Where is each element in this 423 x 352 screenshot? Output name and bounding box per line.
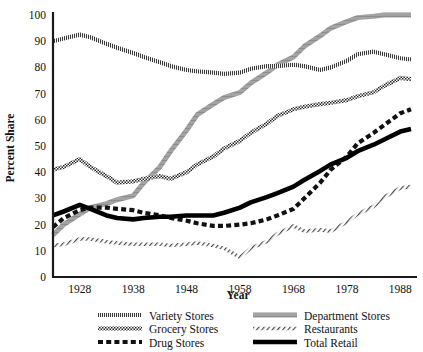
legend-label: Restaurants <box>304 323 358 335</box>
legend-label: Total Retail <box>304 337 358 349</box>
y-tick-label: 50 <box>35 140 47 152</box>
x-axis-title: Year <box>227 289 250 301</box>
y-axis-title: Percent Share <box>4 114 16 183</box>
x-tick-label: 1968 <box>282 283 305 295</box>
x-tick-label: 1948 <box>175 283 198 295</box>
series-line-restaurants <box>53 187 411 258</box>
percent-share-line-chart: 0102030405060708090100 19281938194819581… <box>0 0 423 352</box>
y-tick-label: 20 <box>35 219 47 231</box>
x-tick-label: 1938 <box>122 283 145 295</box>
y-tick-label: 0 <box>40 271 46 283</box>
y-tick-label: 30 <box>35 192 47 204</box>
series-line-variety-stores <box>53 35 411 74</box>
y-tick-label: 90 <box>35 35 47 47</box>
chart-container: 0102030405060708090100 19281938194819581… <box>0 0 423 352</box>
legend-entry-variety-stores[interactable]: Variety Stores <box>98 310 214 323</box>
y-tick-label: 10 <box>35 245 47 257</box>
y-tick-label: 40 <box>35 166 47 178</box>
x-tick-label: 1988 <box>389 283 412 295</box>
legend-label: Drug Stores <box>149 337 205 350</box>
chart-legend: Variety StoresDepartment StoresGrocery S… <box>98 310 390 350</box>
y-tick-label: 80 <box>35 61 47 73</box>
legend-entry-department-stores[interactable]: Department Stores <box>253 310 390 323</box>
y-axis-ticks: 0102030405060708090100 <box>29 9 47 283</box>
x-tick-label: 1978 <box>335 283 358 295</box>
legend-entry-grocery-stores[interactable]: Grocery Stores <box>98 323 219 336</box>
legend-label: Variety Stores <box>149 310 214 323</box>
y-tick-label: 70 <box>35 88 47 100</box>
y-tick-label: 100 <box>29 9 47 21</box>
x-tick-label: 1928 <box>68 283 91 295</box>
legend-entry-total-retail[interactable]: Total Retail <box>253 337 358 349</box>
legend-entry-drug-stores[interactable]: Drug Stores <box>98 337 205 350</box>
legend-label: Grocery Stores <box>149 323 219 336</box>
y-tick-label: 60 <box>35 114 47 126</box>
series-line-department-stores <box>53 15 411 235</box>
legend-label: Department Stores <box>304 310 390 323</box>
legend-entry-restaurants[interactable]: Restaurants <box>253 323 358 335</box>
